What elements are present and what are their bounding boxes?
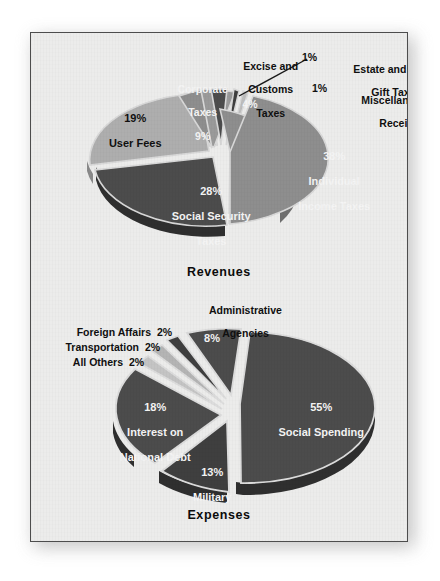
revenues-title: Revenues xyxy=(159,265,279,279)
label-military-name: Military xyxy=(193,491,232,503)
label-foreign-affairs: Foreign Affairs xyxy=(39,327,151,339)
label-interest-percent: 18% xyxy=(144,401,166,413)
label-social-spending-name: Social Spending xyxy=(278,426,364,438)
label-administrative-agencies: Administrative Agencies xyxy=(174,293,294,352)
expenses-chart: Administrative Agencies 8% Foreign Affai… xyxy=(31,291,407,521)
label-all-others: All Others xyxy=(37,357,123,369)
label-transportation: Transportation xyxy=(31,342,139,354)
label-estate-line1: Estate and xyxy=(353,63,406,75)
label-corporate-percent: 9% xyxy=(195,130,210,142)
label-ss-percent: 28% xyxy=(200,185,222,197)
label-ss-line2: Taxes xyxy=(196,235,226,247)
expenses-title: Expenses xyxy=(159,508,279,522)
label-corporate-line2: Taxes xyxy=(188,106,217,118)
label-social-spending-percent: 55% xyxy=(310,401,332,413)
label-social-security-taxes: 28% Social Security Taxes xyxy=(141,173,257,259)
label-iit-line1: Individual xyxy=(309,175,360,187)
label-misc-receipts: Miscellaneous Receipts xyxy=(338,83,408,142)
label-military-percent: 13% xyxy=(201,466,223,478)
label-administrative-agencies-percent: 8% xyxy=(197,332,227,344)
label-ss-line1: Social Security xyxy=(172,210,251,222)
revenues-chart: Excise and Customs Taxes 4% 1% Estate an… xyxy=(31,33,407,288)
label-user-fees: 19% User Fees xyxy=(75,100,171,162)
label-excise-line2: Customs xyxy=(248,83,293,95)
label-misc-receipts-percent: 1% xyxy=(312,83,338,95)
label-iit-percent: 38% xyxy=(323,150,345,162)
label-misc-line1: Miscellaneous xyxy=(361,94,408,106)
label-excise-line1: Excise and xyxy=(243,60,298,72)
label-user-fees-name: User Fees xyxy=(109,137,162,149)
label-military: 13% Military xyxy=(155,454,245,516)
label-misc-line2: Receipts xyxy=(361,118,408,130)
label-individual-income-taxes: 38% Individual Income Taxes xyxy=(267,138,377,224)
label-interest-line1: Interest on xyxy=(127,426,183,438)
label-iit-line2: Income Taxes xyxy=(298,200,370,212)
label-corporate-line1: Corporate xyxy=(178,83,228,95)
label-social-spending: 55% Social Spending xyxy=(247,389,371,451)
label-excise-customs-taxes: Excise and Customs Taxes xyxy=(217,49,301,131)
budget-pie-figure: Excise and Customs Taxes 4% 1% Estate an… xyxy=(0,0,440,581)
label-transportation-percent: 2% xyxy=(145,342,171,354)
label-excise-customs-percent: 4% xyxy=(235,99,265,111)
label-user-fees-percent: 19% xyxy=(124,112,146,124)
label-estate-gift-percent: 1% xyxy=(302,52,328,64)
label-admin-line1: Administrative xyxy=(209,304,282,316)
label-foreign-affairs-percent: 2% xyxy=(157,327,183,339)
label-admin-line2: Agencies xyxy=(222,327,269,339)
chart-panel: Excise and Customs Taxes 4% 1% Estate an… xyxy=(30,32,408,542)
label-all-others-percent: 2% xyxy=(129,357,155,369)
